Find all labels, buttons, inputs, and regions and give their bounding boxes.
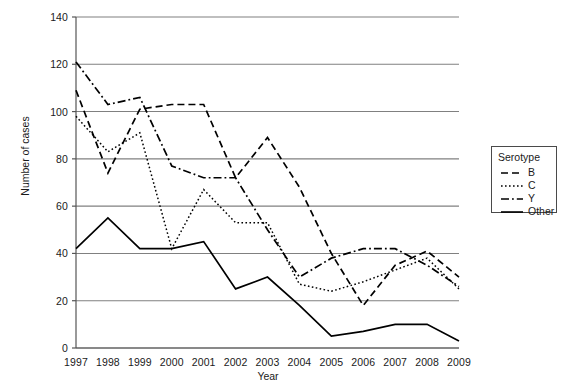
legend-title: Serotype [498, 151, 540, 163]
series-line-b [76, 90, 459, 305]
series-line-other [76, 218, 459, 341]
legend-label: B [528, 166, 535, 178]
legend-swatch-other [500, 210, 524, 214]
plot-area [0, 0, 564, 391]
legend-swatch-c [500, 184, 524, 188]
legend-swatch-y [500, 197, 524, 201]
axis-lines [72, 17, 459, 348]
gridlines [76, 17, 459, 348]
series-line-y [76, 62, 459, 287]
legend-label: C [528, 179, 536, 191]
data-series [76, 62, 459, 341]
legend-label: Y [528, 192, 535, 204]
series-line-c [76, 116, 459, 291]
legend-label: Other [528, 205, 554, 217]
legend-swatch-b [500, 171, 524, 175]
chart-figure: 020406080100120140 199719981999200020012… [0, 0, 564, 391]
